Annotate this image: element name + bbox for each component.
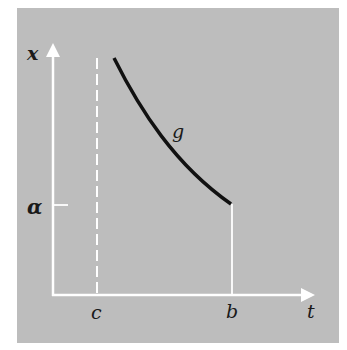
- c-label: c: [91, 301, 102, 323]
- figure-svg: x t α c b g: [0, 0, 347, 350]
- x-axis-label: t: [307, 300, 315, 322]
- b-label: b: [226, 300, 238, 322]
- alpha-label: α: [27, 195, 42, 219]
- curve-label-g: g: [172, 120, 184, 142]
- vertical-axis-arrow-icon: [46, 43, 60, 57]
- y-axis-label: x: [26, 42, 39, 64]
